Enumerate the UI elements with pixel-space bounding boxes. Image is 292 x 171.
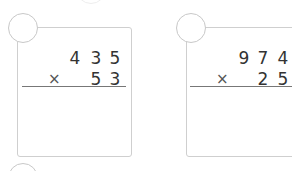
digit: 4 xyxy=(276,48,290,68)
problem-number-circle-2 xyxy=(176,13,206,43)
digit: 7 xyxy=(256,48,270,68)
answer-line-2 xyxy=(190,86,292,87)
problem-number-circle-1 xyxy=(8,13,38,43)
problem-number-circle-3 xyxy=(8,163,38,171)
digit: 9 xyxy=(237,48,251,68)
problem-box-1 xyxy=(17,27,132,157)
problem-box-2 xyxy=(186,27,292,157)
multiplicand-2: 9 7 4 xyxy=(0,48,292,68)
problem-number-circle-prev xyxy=(76,0,106,4)
